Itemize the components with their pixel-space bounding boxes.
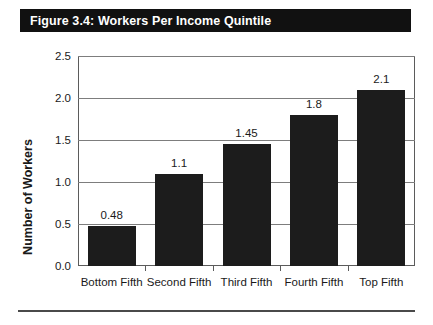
bar-value-label: 0.48 [100, 209, 122, 221]
y-axis-tick-label: 1.5 [55, 134, 71, 146]
gridline [78, 56, 415, 57]
plot-area: 0.00.51.01.52.02.5 0.481.11.451.82.1 Bot… [78, 56, 415, 266]
x-axis-category-label: Top Fifth [359, 276, 403, 288]
x-axis-category-label: Second Fifth [147, 276, 212, 288]
bar-value-label: 1.8 [306, 98, 322, 110]
x-axis-category-label: Third Fifth [221, 276, 273, 288]
bar [290, 115, 338, 266]
x-axis-category-label: Bottom Fifth [81, 276, 143, 288]
bottom-divider [18, 310, 415, 312]
x-axis-tick [280, 266, 281, 271]
y-axis-tick-label: 2.0 [55, 92, 71, 104]
y-axis-tick-label: 0.0 [55, 260, 71, 272]
figure-title-band: Figure 3.4: Workers Per Income Quintile [20, 9, 411, 32]
bar [155, 174, 203, 266]
bar [357, 90, 405, 266]
bar-value-label: 2.1 [373, 73, 389, 85]
y-axis-title: Number of Workers [21, 117, 35, 277]
x-axis-tick [145, 266, 146, 271]
x-axis-tick [348, 266, 349, 271]
y-axis-tick-label: 1.0 [55, 176, 71, 188]
bar [223, 144, 271, 266]
bar-value-label: 1.45 [235, 127, 257, 139]
x-axis-tick [213, 266, 214, 271]
y-axis-tick-label: 2.5 [55, 50, 71, 62]
figure-title: Figure 3.4: Workers Per Income Quintile [30, 14, 271, 28]
bar [88, 226, 136, 266]
figure-container: Figure 3.4: Workers Per Income Quintile … [0, 0, 433, 325]
x-axis-category-label: Fourth Fifth [284, 276, 343, 288]
bar-value-label: 1.1 [171, 157, 187, 169]
y-axis-tick-label: 0.5 [55, 218, 71, 230]
